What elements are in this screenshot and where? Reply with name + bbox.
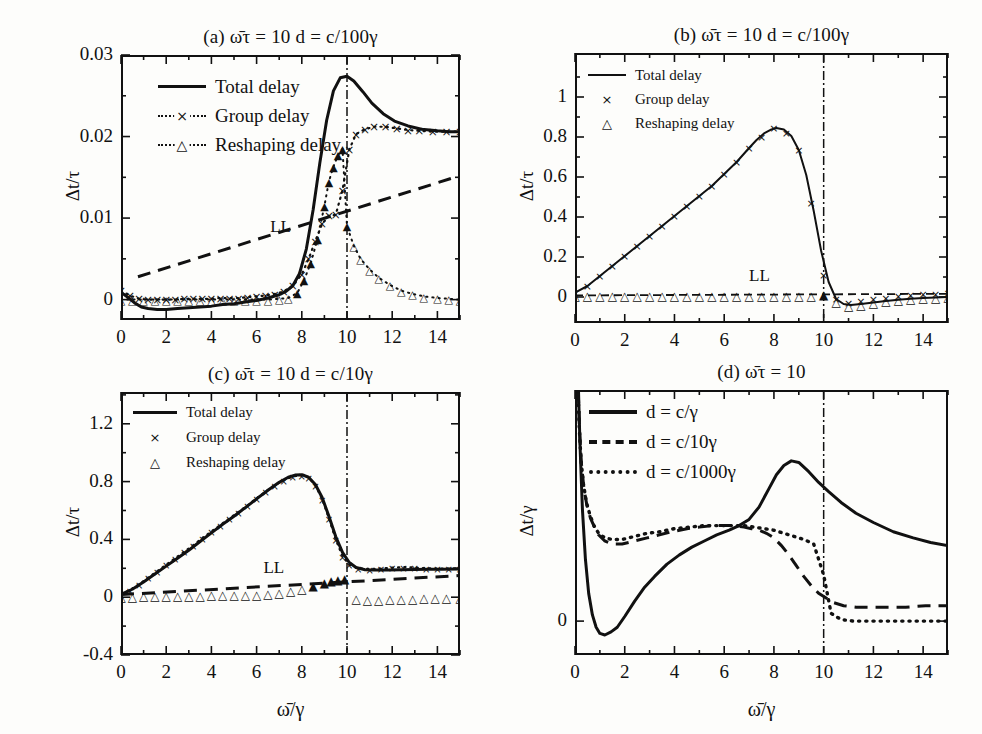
legend-marker: △: [150, 456, 160, 469]
panel-c-yticklabel: 1.2: [47, 412, 113, 434]
panel-d-xticklabel: 8: [754, 661, 794, 683]
legend-marker: ×: [150, 431, 161, 444]
panel-c-xticklabel: 12: [372, 661, 412, 683]
panel-b-xticklabel: 14: [903, 329, 943, 351]
panel-c-annotation-ll: LL: [263, 558, 284, 578]
legend-label: Total delay: [209, 76, 300, 98]
legend-row: ×Group delay: [130, 425, 286, 450]
panel-b-xticklabel: 4: [654, 329, 694, 351]
panel-b-xticklabel: 10: [804, 329, 844, 351]
legend-line-solid: [133, 411, 177, 414]
legend-line-dotted-marker: △: [158, 137, 206, 153]
panel-d-xticklabel: 10: [804, 661, 844, 683]
panel-a-xticklabel: 2: [146, 326, 186, 348]
panel-c-xticklabel: 2: [146, 661, 186, 683]
legend-label: d = c/10γ: [640, 431, 717, 453]
legend-row: △Reshaping delay: [155, 130, 341, 159]
legend-key-x-marker: ×: [130, 425, 180, 450]
panel-b-yticklabel: 1: [501, 85, 567, 107]
legend-key-dotted-tri: △: [155, 130, 209, 159]
panel-b-xticklabel: 12: [853, 329, 893, 351]
panel-a-xticklabel: 6: [237, 326, 277, 348]
panel-c-xticklabel: 10: [327, 661, 367, 683]
legend-label: Group delay: [180, 429, 261, 446]
panel-a-xticklabel: 12: [372, 326, 412, 348]
panel-d-title: (d) ω̄τ = 10: [717, 361, 805, 383]
panel-a-yticklabel: 0.01: [47, 206, 113, 228]
panel-b-yticklabel: 0.8: [501, 125, 567, 147]
panel-b-yticklabel: 0: [501, 285, 567, 307]
legend-marker: △: [602, 117, 612, 130]
panel-c-xticklabel: 14: [417, 661, 457, 683]
panel-c-xticklabel: 4: [191, 661, 231, 683]
legend-row: Total delay: [155, 72, 341, 101]
legend-row: ×Group delay: [585, 87, 735, 111]
panel-a-xticklabel: 0: [101, 326, 141, 348]
panel-a-xticklabel: 10: [327, 326, 367, 348]
panel-d-xticklabel: 4: [654, 661, 694, 683]
panel-c-yticklabel: 0: [47, 585, 113, 607]
legend-key-solid: [155, 72, 209, 101]
panel-b-xticklabel: 8: [754, 329, 794, 351]
legend-line-solid: [588, 74, 626, 76]
legend-key-dotted: [586, 457, 640, 487]
legend-label: d = c/γ: [640, 401, 698, 423]
panel-d-xticklabel: 2: [605, 661, 645, 683]
legend-label: Group delay: [209, 105, 309, 127]
panel-d-xticklabel: 14: [903, 661, 943, 683]
legend-label: Reshaping delay: [180, 454, 286, 471]
panel-a-yticklabel: 0: [47, 288, 113, 310]
panel-b-xticklabel: 6: [704, 329, 744, 351]
legend-row: Total delay: [585, 63, 735, 87]
panel-d-ylabel: Δt/γ: [516, 483, 538, 559]
legend-key-tri-marker: △: [130, 450, 180, 475]
panel-a-xticklabel: 14: [417, 326, 457, 348]
legend-marker: △: [175, 137, 190, 153]
panel-d-xticklabel: 0: [555, 661, 595, 683]
panel-c-xticklabel: 8: [282, 661, 322, 683]
legend-panel-b: Total delay×Group delay△Reshaping delay: [585, 63, 735, 135]
legend-key-tri-marker: △: [585, 111, 629, 135]
legend-line-dotted-marker: ×: [158, 108, 206, 124]
panel-a-xticklabel: 8: [282, 326, 322, 348]
panel-a-yticklabel: 0.03: [47, 43, 113, 65]
panel-d-yticklabel: 0: [501, 609, 567, 631]
legend-key-x-marker: ×: [585, 87, 629, 111]
legend-panel-c: Total delay×Group delay△Reshaping delay: [130, 400, 286, 475]
legend-label: Total delay: [629, 67, 702, 84]
legend-row: ×Group delay: [155, 101, 341, 130]
legend-key-solid-thin: [585, 63, 629, 87]
legend-label: d = c/1000γ: [640, 461, 736, 483]
legend-label: Reshaping delay: [209, 134, 341, 156]
legend-row: △Reshaping delay: [585, 111, 735, 135]
panel-c-yticklabel: 0.8: [47, 470, 113, 492]
panel-a-title: (a) ω̄τ = 10 d = c/100γ: [203, 26, 378, 48]
legend-marker: ×: [174, 108, 190, 124]
legend-line-solid: [589, 410, 637, 413]
panel-b-xticklabel: 0: [555, 329, 595, 351]
panel-c-xticklabel: 6: [237, 661, 277, 683]
panel-d-xticklabel: 12: [853, 661, 893, 683]
legend-panel-a: Total delay×Group delay△Reshaping delay: [155, 72, 341, 159]
legend-key-dashed: [586, 427, 640, 457]
panel-b-title: (b) ω̄τ = 10 d = c/100γ: [674, 24, 850, 46]
legend-key-dotted-x: ×: [155, 101, 209, 130]
panel-d-xlabel: ω̄/γ: [748, 698, 776, 721]
panel-c-xlabel: ω̄/γ: [277, 698, 305, 721]
legend-line-solid: [158, 85, 206, 88]
panel-d-xticklabel: 6: [704, 661, 744, 683]
panel-b-annotation-ll: LL: [749, 266, 770, 286]
panel-a-yticklabel: 0.02: [47, 125, 113, 147]
panel-b-yticklabel: 0.4: [501, 205, 567, 227]
legend-key-solid: [130, 400, 180, 425]
panel-c-yticklabel: -0.4: [47, 643, 113, 665]
legend-row: d = c/γ: [586, 397, 736, 427]
panel-c-yticklabel: 0.4: [47, 527, 113, 549]
legend-row: d = c/1000γ: [586, 457, 736, 487]
legend-line-dashed: [589, 440, 637, 444]
panel-b-xticklabel: 2: [605, 329, 645, 351]
legend-row: d = c/10γ: [586, 427, 736, 457]
legend-line-dotted: [589, 470, 637, 474]
legend-marker: ×: [602, 93, 613, 106]
panel-a-xticklabel: 4: [191, 326, 231, 348]
